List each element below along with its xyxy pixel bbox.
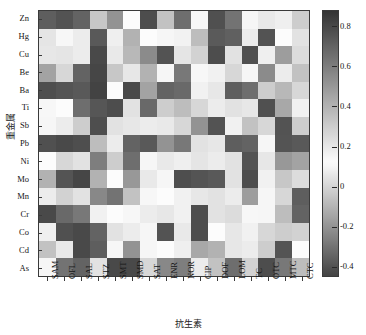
heatmap-cell	[140, 188, 157, 206]
x-axis-tick-labels: SAMOFLSALSTZSMTSMDSATENRNORCIPDOFLOMTCOT…	[38, 277, 310, 317]
heatmap-cell	[107, 135, 124, 153]
heatmap-cell	[56, 99, 73, 117]
heatmap-cell	[73, 152, 90, 170]
heatmap-cell	[56, 11, 73, 29]
heatmap-cell	[90, 152, 107, 170]
heatmap-cell	[225, 135, 242, 153]
y-tick-mark	[38, 179, 42, 180]
heatmap-cell	[123, 64, 140, 82]
heatmap-cell	[140, 117, 157, 135]
heatmap-cell	[242, 188, 259, 206]
x-tick-label-ofl: OFL	[68, 239, 77, 279]
heatmap-cell	[191, 188, 208, 206]
y-tick-label-mo: Mo	[17, 175, 29, 184]
heatmap-cell	[208, 11, 225, 29]
heatmap-cell	[107, 223, 124, 241]
heatmap-plot-area	[38, 10, 310, 277]
heatmap-cell	[275, 99, 292, 117]
heatmap-cell	[140, 205, 157, 223]
y-tick-label-cr: Cr	[21, 210, 30, 219]
heatmap-cell	[258, 205, 275, 223]
heatmap-cell	[107, 46, 124, 64]
heatmap-cell	[73, 135, 90, 153]
heatmap-cell	[225, 205, 242, 223]
heatmap-cell	[90, 99, 107, 117]
heatmap-cell	[56, 29, 73, 47]
heatmap-cell	[56, 223, 73, 241]
y-tick-label-mn: Mn	[17, 192, 29, 201]
heatmap-cell	[56, 46, 73, 64]
y-tick-label-ti: Ti	[22, 103, 29, 112]
x-tick-label-smd: SMD	[136, 239, 145, 279]
heatmap-cell	[123, 188, 140, 206]
heatmap-cell	[107, 170, 124, 188]
heatmap-cell	[140, 170, 157, 188]
heatmap-cell	[191, 205, 208, 223]
heatmap-cell	[157, 170, 174, 188]
heatmap-cell	[275, 188, 292, 206]
y-tick-label-cd: Cd	[19, 246, 29, 255]
heatmap-cell	[73, 29, 90, 47]
heatmap-cell	[73, 46, 90, 64]
y-tick-label-be: Be	[20, 68, 29, 77]
heatmap-cell	[275, 223, 292, 241]
heatmap-cell	[275, 64, 292, 82]
y-tick-label-sb: Sb	[20, 121, 29, 130]
heatmap-cell	[225, 152, 242, 170]
heatmap-cell	[225, 46, 242, 64]
heatmap-cell	[242, 64, 259, 82]
x-tick-label-smt: SMT	[119, 239, 128, 279]
heatmap-cell	[258, 82, 275, 100]
colorbar-tick-label: -0.4	[340, 262, 353, 271]
heatmap-cell	[242, 99, 259, 117]
heatmap-cell	[157, 117, 174, 135]
heatmap-cell	[107, 29, 124, 47]
heatmap-cell	[157, 135, 174, 153]
heatmap-cell	[292, 29, 309, 47]
heatmap-cell	[225, 170, 242, 188]
heatmap-cell	[292, 152, 309, 170]
heatmap-cell	[56, 170, 73, 188]
x-tick-label-otc: OTC	[272, 239, 281, 279]
colorbar-tick-mark	[332, 106, 337, 107]
heatmap-cell	[225, 188, 242, 206]
heatmap-cell	[90, 46, 107, 64]
heatmap-cell	[242, 223, 259, 241]
x-tick-label-ctc: CTC	[306, 239, 315, 279]
heatmap-cell	[225, 29, 242, 47]
heatmap-cell	[208, 82, 225, 100]
heatmap-cell	[242, 152, 259, 170]
heatmap-cell	[157, 29, 174, 47]
heatmap-cell	[191, 99, 208, 117]
x-tick-label-nor: NOR	[187, 239, 196, 279]
heatmap-cell	[157, 152, 174, 170]
heatmap-cell	[208, 170, 225, 188]
colorbar-tick-label: 0.6	[340, 62, 351, 71]
heatmap-cell	[174, 223, 191, 241]
heatmap-cell	[191, 223, 208, 241]
heatmap-cell	[107, 188, 124, 206]
heatmap-cell	[191, 82, 208, 100]
heatmap-cell	[73, 223, 90, 241]
y-tick-label-hg: Hg	[19, 32, 29, 41]
heatmap-cell	[292, 170, 309, 188]
heatmap-cell	[140, 11, 157, 29]
heatmap-cell	[275, 117, 292, 135]
heatmap-cell	[275, 46, 292, 64]
heatmap-cell	[208, 64, 225, 82]
heatmap-cell	[258, 188, 275, 206]
heatmap-cell	[242, 135, 259, 153]
heatmap-cell	[242, 29, 259, 47]
heatmap-cell	[242, 117, 259, 135]
heatmap-cell	[107, 64, 124, 82]
heatmap-cell	[157, 82, 174, 100]
heatmap-cell	[174, 205, 191, 223]
heatmap-cell	[292, 135, 309, 153]
heatmap-cell	[140, 82, 157, 100]
heatmap-cell	[56, 117, 73, 135]
heatmap-cell	[258, 46, 275, 64]
heatmap-cell	[174, 29, 191, 47]
y-tick-label-ni: Ni	[21, 157, 30, 166]
y-tick-mark	[38, 55, 42, 56]
x-tick-label-dof: DOF	[221, 239, 230, 279]
